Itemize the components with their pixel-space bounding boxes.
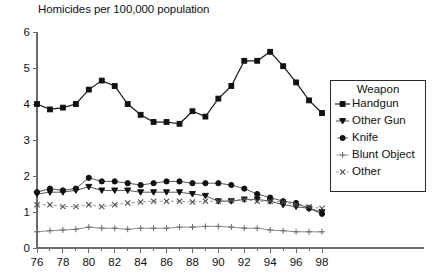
y-tick-label: 1 [24,206,30,218]
y-tick-label: 3 [24,134,30,146]
x-tick-label: 82 [108,256,121,268]
y-tick-label: 2 [24,170,30,182]
legend-item-knife[interactable]: Knife [331,129,425,146]
legend-title: Weapon [331,83,425,95]
x-tick-label: 94 [264,256,277,268]
legend-item-label: Blunt Object [352,148,415,161]
legend-item-label: Other [352,165,381,178]
square-marker-icon [334,97,352,111]
x-tick-label: 78 [57,256,70,268]
x-tick-label: 98 [316,256,329,268]
x-tick-label: 92 [238,256,251,268]
y-tick-label: 4 [24,98,31,110]
y-tick-label: 6 [24,26,30,38]
legend-rows: HandgunOther GunKnifeBlunt ObjectOther [331,95,425,180]
x-tick-label: 88 [186,256,199,268]
series-blunt-object [34,223,325,234]
x-tick-label: 80 [82,256,95,268]
x-tick-label: 76 [31,256,44,268]
triangle-down-marker-icon [334,114,352,128]
legend-item-label: Handgun [352,97,399,110]
legend-item-other-gun[interactable]: Other Gun [331,112,425,129]
legend-item-blunt-object[interactable]: Blunt Object [331,146,425,163]
x-tick-label: 84 [134,256,147,268]
circle-marker-icon [334,131,352,145]
y-tick-label: 5 [24,62,30,74]
series-handgun [35,49,325,126]
legend: Weapon HandgunOther GunKnifeBlunt Object… [330,80,426,192]
x-tick-label: 90 [212,256,225,268]
x-marker-icon [334,165,352,179]
legend-item-label: Other Gun [352,114,406,127]
legend-item-other[interactable]: Other [331,163,425,180]
legend-item-handgun[interactable]: Handgun [331,95,425,112]
x-tick-label: 86 [160,256,173,268]
homicide-weapon-line-chart: Homicides per 100,000 population 0123456… [0,0,432,278]
x-tick-label: 96 [290,256,303,268]
legend-item-label: Knife [352,131,378,144]
series-lines [34,49,325,234]
y-tick-label: 0 [24,242,30,254]
plus-marker-icon [334,148,352,162]
